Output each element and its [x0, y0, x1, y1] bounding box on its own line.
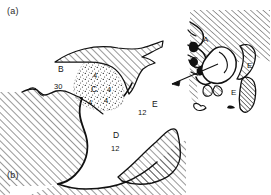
panel-label-b: (b) — [7, 170, 19, 180]
figure-container: (a) (b) — [0, 0, 271, 195]
map-illustration: B 30 C 4 4 4 4 D 12 E 12 — [0, 0, 271, 195]
main-map-group: B 30 C 4 4 4 4 D 12 E 12 — [0, 41, 186, 195]
value-label-12-D: 12 — [111, 144, 119, 153]
inset-region-label-E-upper: E — [247, 61, 252, 70]
inset-map-group — [188, 10, 271, 112]
value-label-4-right: 4 — [107, 85, 111, 94]
value-label-4-lower-right: 4 — [104, 96, 108, 105]
inset-region-label-A: A — [203, 35, 209, 44]
value-label-12-E: 12 — [138, 108, 146, 117]
inset-dark-island-south — [239, 77, 255, 112]
region-label-C: C — [91, 84, 97, 94]
region-label-D: D — [113, 130, 119, 140]
panel-label-a: (a) — [7, 6, 19, 16]
value-label-4-bottom: 4 — [88, 98, 92, 107]
region-label-B: B — [58, 64, 64, 74]
inset-south-islets — [194, 85, 235, 110]
region-label-E-main: E — [152, 99, 158, 109]
value-label-30: 30 — [54, 82, 62, 91]
inset-region-label-E-lower: E — [231, 88, 236, 97]
value-label-4-top: 4 — [93, 71, 97, 80]
